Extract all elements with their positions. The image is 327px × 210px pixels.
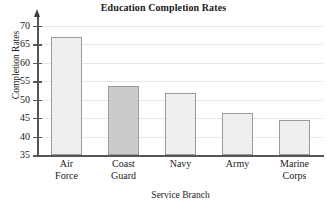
x-axis-category-label: Air Force: [37, 158, 97, 181]
y-axis-tick-label: 35: [0, 150, 30, 160]
y-axis-tick: [33, 155, 42, 156]
y-axis-tick: [33, 137, 42, 138]
bar: [165, 93, 196, 155]
y-axis-tick: [33, 63, 42, 64]
y-axis-tick: [33, 44, 42, 45]
chart-title: Education Completion Rates: [0, 2, 327, 13]
x-axis-title: Service Branch: [38, 190, 323, 200]
bar: [108, 86, 139, 155]
x-axis-category-label: Coast Guard: [94, 158, 154, 181]
y-axis-tick: [33, 26, 42, 27]
y-axis-tick: [33, 81, 42, 82]
bar: [279, 120, 310, 155]
y-axis-arrow-icon: [34, 9, 40, 17]
x-axis-line: [33, 155, 324, 157]
y-axis-tick-label: 55: [0, 76, 30, 86]
y-axis-line: [37, 15, 39, 156]
y-axis-tick-label: 40: [0, 132, 30, 142]
y-axis-tick-label: 60: [0, 58, 30, 68]
bar-chart-figure: Education Completion Rates Completion Ra…: [0, 0, 327, 210]
x-axis-category-label: Army: [208, 158, 268, 170]
gridline: [38, 26, 323, 27]
y-axis-tick: [33, 118, 42, 119]
x-axis-category-label: Marine Corps: [265, 158, 325, 181]
y-axis-tick: [33, 100, 42, 101]
x-axis-category-label: Navy: [151, 158, 211, 170]
bar: [51, 37, 82, 155]
y-axis-tick-label: 50: [0, 95, 30, 105]
bar: [222, 113, 253, 155]
y-axis-tick-label: 70: [0, 21, 30, 31]
plot-area: [38, 22, 323, 155]
y-axis-tick-label: 45: [0, 113, 30, 123]
y-axis-tick-label: 65: [0, 39, 30, 49]
